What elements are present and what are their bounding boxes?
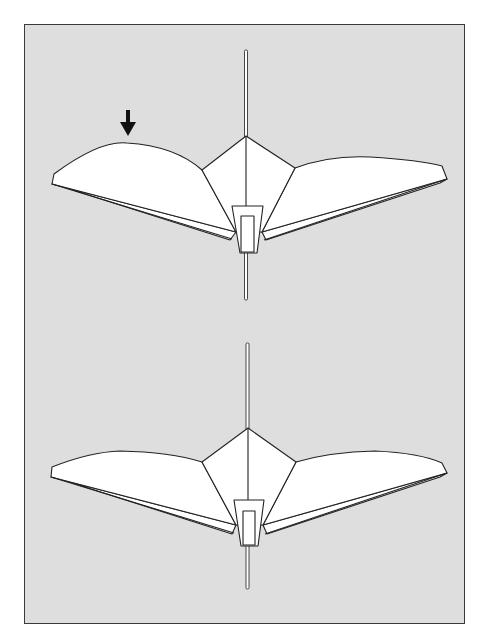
tail-inner-top bbox=[241, 216, 254, 252]
tail-inner-bottom bbox=[243, 511, 255, 545]
left-wing-top bbox=[52, 143, 236, 232]
down-arrow-icon bbox=[120, 110, 136, 136]
bird-figure-bottom bbox=[51, 343, 447, 589]
origami-diagram bbox=[0, 0, 491, 643]
bird-figure-top bbox=[52, 50, 447, 300]
